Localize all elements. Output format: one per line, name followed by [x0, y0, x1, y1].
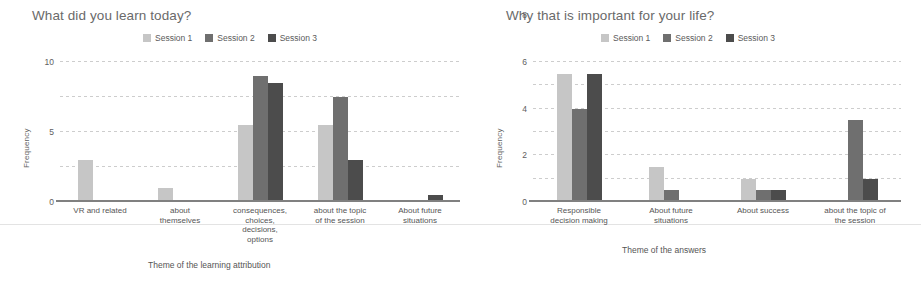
bar-session-2[interactable] [333, 97, 348, 202]
legend-item-session-1: Session 1 [601, 33, 650, 43]
bar-group [140, 62, 220, 202]
chart-panel-learning: What did you learn today? Session 1 Sess… [0, 0, 470, 295]
bar-session-1[interactable] [318, 125, 333, 202]
bar-session-1[interactable] [741, 179, 756, 202]
x-axis-line-right [529, 200, 901, 202]
bar-group [380, 62, 460, 202]
y-tick-label-0: 0 [522, 197, 527, 207]
bar-session-2[interactable] [253, 76, 268, 202]
bar-session-1[interactable] [557, 74, 572, 202]
legend-label-session-3: Session 3 [738, 33, 775, 43]
legend-swatch-session-2 [663, 34, 671, 42]
x-tick-label: aboutthemselves [140, 206, 220, 244]
legend-swatch-session-3 [726, 34, 734, 42]
y-tick-label-2: 2 [522, 150, 527, 160]
chart-title-left: What did you learn today? [32, 8, 191, 23]
legend-swatch-session-1 [601, 34, 609, 42]
legend-label-session-2: Session 2 [217, 33, 254, 43]
chart-title-right: Why that is important for your life? [506, 8, 714, 23]
legend-swatch-session-3 [268, 34, 276, 42]
bar-group [300, 62, 380, 202]
x-tick-label: VR and related [60, 206, 140, 244]
y-tick-label-6: 6 [522, 57, 527, 67]
x-tick-label: About futuresituations [625, 206, 717, 225]
y-tick-label-4: 4 [522, 104, 527, 114]
x-tick-label: consequences,choices,decisions,options [220, 206, 300, 244]
legend-item-session-2: Session 2 [663, 33, 712, 43]
x-axis-line-left [56, 200, 460, 202]
legend-item-session-1: Session 1 [143, 33, 192, 43]
bar-session-1[interactable] [78, 160, 93, 202]
x-tick-label: About success [717, 206, 809, 225]
bar-group [220, 62, 300, 202]
y-axis-title-right: Frequency [495, 128, 504, 168]
y-tick-label-8: 8 [522, 10, 527, 20]
bar-session-3[interactable] [268, 83, 283, 202]
legend-label-session-1: Session 1 [155, 33, 192, 43]
bar-groups-right [533, 62, 901, 202]
y-axis-title-left: Frequency [22, 128, 31, 168]
bar-session-3[interactable] [587, 74, 602, 202]
legend-label-session-1: Session 1 [613, 33, 650, 43]
bar-group [625, 62, 717, 202]
x-tick-label: Responsibledecision making [533, 206, 625, 225]
bar-session-2[interactable] [572, 109, 587, 202]
chart-panel-importance: Why that is important for your life? Ses… [470, 0, 921, 295]
x-tick-label: about the topic ofthe session [809, 206, 901, 225]
bar-session-3[interactable] [348, 160, 363, 202]
bar-group [809, 62, 901, 202]
y-tick-label-5: 5 [49, 127, 54, 137]
legend-swatch-session-1 [143, 34, 151, 42]
y-tick-label-10: 10 [45, 57, 54, 67]
legend-item-session-2: Session 2 [205, 33, 254, 43]
legend-label-session-3: Session 3 [280, 33, 317, 43]
bar-session-2[interactable] [848, 120, 863, 202]
bar-group [533, 62, 625, 202]
x-tick-labels-left: VR and relatedaboutthemselvesconsequence… [60, 206, 460, 244]
plot-area-right: 024681012 [533, 62, 901, 202]
legend-left: Session 1 Session 2 Session 3 [143, 33, 317, 43]
legend-item-session-3: Session 3 [726, 33, 775, 43]
bar-session-1[interactable] [238, 125, 253, 202]
bar-group [60, 62, 140, 202]
bar-group [717, 62, 809, 202]
legend-swatch-session-2 [205, 34, 213, 42]
legend-right: Session 1 Session 2 Session 3 [601, 33, 775, 43]
x-tick-labels-right: Responsibledecision makingAbout futuresi… [533, 206, 901, 225]
legend-label-session-2: Session 2 [675, 33, 712, 43]
bar-session-3[interactable] [863, 179, 878, 202]
bar-session-1[interactable] [649, 167, 664, 202]
bar-groups-left [60, 62, 460, 202]
x-axis-title-left: Theme of the learning attribution [148, 260, 270, 270]
x-tick-label: About futuresituations [380, 206, 460, 244]
x-tick-label: about the topicof the session [300, 206, 380, 244]
y-tick-label-0: 0 [49, 197, 54, 207]
plot-area-left: 05101520 [60, 62, 460, 202]
x-axis-title-right: Theme of the answers [622, 245, 706, 255]
legend-item-session-3: Session 3 [268, 33, 317, 43]
